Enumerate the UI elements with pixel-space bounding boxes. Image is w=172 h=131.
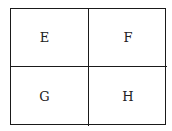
cell-label: E xyxy=(40,30,50,45)
grid-diagram: E F G H xyxy=(10,8,166,125)
cell-top-right: F xyxy=(89,9,167,67)
cell-bottom-left: G xyxy=(11,67,89,126)
cell-label: G xyxy=(39,89,49,104)
cell-label: H xyxy=(122,89,133,104)
cell-bottom-right: H xyxy=(89,67,167,126)
cell-top-left: E xyxy=(11,9,89,67)
cell-label: F xyxy=(123,30,132,45)
